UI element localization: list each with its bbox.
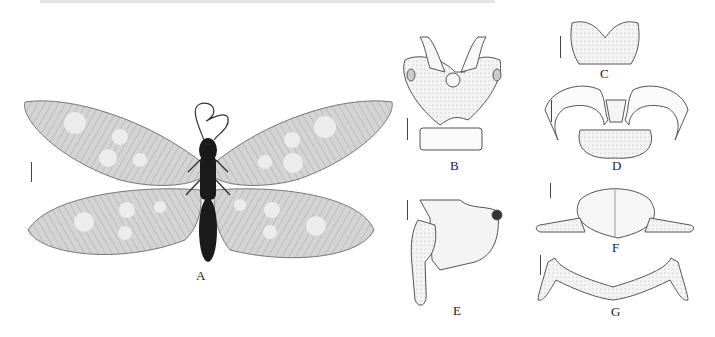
panel-f-drawing [536,189,694,238]
scale-bar-b [407,118,408,140]
panel-label-e: E [453,303,461,319]
figure-plate [0,0,715,337]
panel-label-f: F [612,240,619,256]
panel-label-b: B [450,158,459,174]
scale-bar-a [31,162,32,182]
panel-b-drawing [404,37,501,150]
scale-bar-e [407,200,408,220]
scale-bar-g [540,255,541,275]
scale-bar-d [551,100,552,122]
panel-e-drawing [411,200,502,305]
panel-a-specimen [25,101,393,262]
panel-d-drawing [545,86,688,158]
panel-label-a: A [196,268,205,284]
panel-c-drawing [571,22,639,64]
panel-label-d: D [612,158,621,174]
scale-bar-f [550,183,551,198]
panel-g-drawing [538,258,688,300]
panel-label-g: G [611,304,620,320]
panel-label-c: C [600,66,609,82]
scale-bar-c [560,36,561,58]
